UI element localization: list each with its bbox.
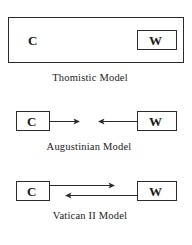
arrow-right-icon bbox=[49, 183, 115, 189]
church-label: C bbox=[27, 114, 36, 129]
arrow-left-icon bbox=[98, 119, 137, 125]
church-world-models-diagram: C W Thomistic Model C W Augustinian Mode… bbox=[0, 0, 192, 245]
world-label: W bbox=[149, 33, 162, 48]
world-label: W bbox=[149, 114, 162, 129]
church-label: C bbox=[28, 33, 37, 48]
model-caption: Thomistic Model bbox=[52, 72, 128, 83]
augustinian-model: C W Augustinian Model bbox=[17, 112, 177, 153]
model-caption: Vatican II Model bbox=[53, 210, 127, 221]
church-label: C bbox=[27, 184, 36, 199]
arrow-left-icon bbox=[65, 193, 137, 199]
vatican-ii-model: C W Vatican II Model bbox=[17, 182, 177, 222]
arrow-right-icon bbox=[49, 119, 80, 125]
thomistic-model: C W Thomistic Model bbox=[9, 18, 184, 84]
world-label: W bbox=[149, 184, 162, 199]
model-caption: Augustinian Model bbox=[47, 141, 132, 152]
